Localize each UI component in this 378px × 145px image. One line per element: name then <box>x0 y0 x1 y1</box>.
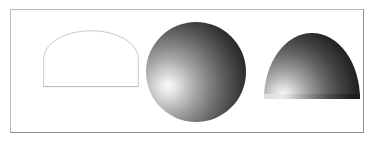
hemisphere-base-edge <box>264 94 360 99</box>
hemisphere-surface <box>264 33 360 99</box>
hemisphere-clip <box>264 33 360 99</box>
shape-stage <box>0 0 378 145</box>
shaded-sphere-shape <box>146 22 246 122</box>
wireframe-semicircle-shape <box>43 30 139 88</box>
sphere-rim-shading <box>146 22 246 122</box>
figure-root <box>0 0 378 145</box>
shaded-hemisphere-shape <box>264 33 360 99</box>
wireframe-semicircle-icon <box>43 30 139 88</box>
